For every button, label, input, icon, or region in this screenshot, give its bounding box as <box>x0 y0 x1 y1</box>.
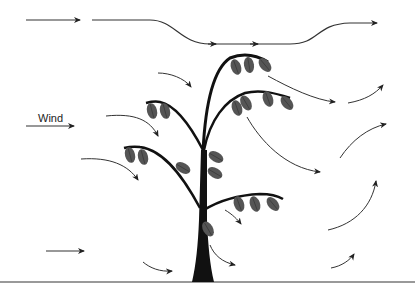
leaf <box>206 165 225 182</box>
leaf <box>158 102 172 120</box>
tree <box>123 55 296 282</box>
deflect-arrow-1 <box>158 73 191 87</box>
rising-arrow-2 <box>340 124 386 158</box>
deflect-arrow-2 <box>106 115 158 136</box>
deflect-arrow-8 <box>210 245 235 265</box>
deflect-arrow-7 <box>225 210 241 224</box>
rising-arrow-3 <box>328 181 376 230</box>
leaf <box>229 58 244 76</box>
wind-tree-diagram <box>0 0 415 296</box>
branch-lower-left <box>124 147 200 208</box>
wind-stream-top <box>92 20 377 44</box>
rising-arrow-1 <box>348 85 383 103</box>
leaf <box>248 195 263 213</box>
deflect-arrow-4 <box>143 262 172 271</box>
leaf <box>174 160 193 177</box>
deflect-arrow-6 <box>247 117 320 172</box>
wind-label: Wind <box>38 112 63 124</box>
leaf <box>207 149 226 166</box>
leaf <box>243 56 256 73</box>
deflect-arrow-5 <box>268 76 335 102</box>
rising-arrow-4 <box>331 254 354 268</box>
leaf <box>145 102 159 120</box>
leaf <box>136 148 150 166</box>
